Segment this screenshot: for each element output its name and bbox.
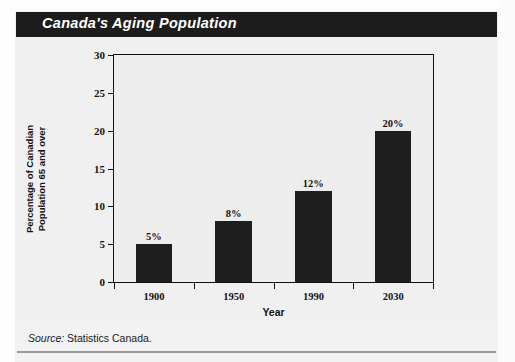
- bar: 12%: [295, 191, 332, 282]
- x-axis-tick: [353, 282, 354, 289]
- bar: 5%: [136, 244, 173, 282]
- x-axis-tick-label: 1990: [303, 291, 324, 302]
- x-axis-tick: [114, 282, 115, 289]
- page-margin-right: [498, 0, 515, 362]
- y-axis-tick-label: 15: [94, 163, 105, 175]
- y-axis-title: Percentage of Canadian Population 65 and…: [24, 124, 48, 232]
- y-axis-tick-label: 5: [100, 238, 106, 250]
- y-axis-title-line1: Percentage of Canadian: [24, 124, 35, 232]
- source-label: Source:: [28, 332, 64, 344]
- bar: 20%: [375, 131, 412, 282]
- y-axis-tick-label: 30: [94, 49, 105, 61]
- bar-value-label: 5%: [146, 231, 162, 242]
- x-axis-tick-label: 2030: [383, 291, 404, 302]
- bottom-rule: [17, 351, 496, 353]
- source-value: Statistics Canada.: [67, 332, 152, 344]
- bar-value-label: 8%: [226, 208, 242, 219]
- figure-title: Canada's Aging Population: [42, 15, 237, 31]
- y-axis-tick: [108, 55, 114, 56]
- y-axis-tick: [108, 206, 114, 207]
- y-axis-tick: [108, 169, 114, 170]
- y-axis-title-line2: Population 65 and over: [36, 126, 47, 231]
- y-axis-tick-label: 10: [94, 200, 105, 212]
- page-margin-top: [0, 0, 515, 11]
- x-axis-tick-label: 1950: [223, 291, 244, 302]
- source-note: Source: Statistics Canada.: [28, 332, 152, 344]
- x-axis-tick: [433, 282, 434, 289]
- bars-layer: 5%8%12%20%: [114, 55, 433, 282]
- bar-value-label: 12%: [303, 178, 324, 189]
- y-axis-tick: [108, 244, 114, 245]
- plot-area: 5%8%12%20% 051015202530 1900195019902030…: [113, 54, 434, 283]
- y-axis-tick-label: 25: [94, 87, 105, 99]
- bar-value-label: 20%: [383, 118, 404, 129]
- x-axis-tick: [274, 282, 275, 289]
- x-axis-tick-label: 1900: [143, 291, 164, 302]
- y-axis-tick-label: 0: [100, 276, 106, 288]
- y-axis-tick: [108, 131, 114, 132]
- figure-page: Canada's Aging Population Percentage of …: [0, 0, 515, 362]
- figure-title-bar: Canada's Aging Population: [16, 12, 497, 37]
- x-axis-tick: [194, 282, 195, 289]
- page-margin-left: [0, 0, 15, 362]
- x-axis-title: Year: [262, 306, 284, 318]
- bar: 8%: [215, 221, 252, 282]
- chart-card: Percentage of Canadian Population 65 and…: [16, 37, 497, 320]
- y-axis-tick-label: 20: [94, 125, 105, 137]
- y-axis-tick: [108, 93, 114, 94]
